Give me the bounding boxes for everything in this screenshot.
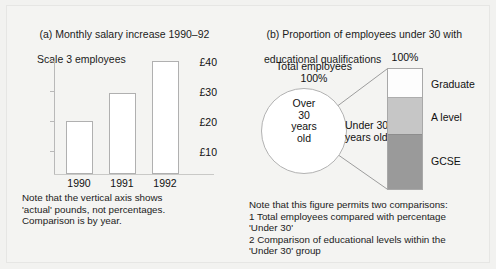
legend-label-graduate: Graduate [431, 78, 475, 90]
y-tick-label-20: £20 [189, 116, 217, 128]
caption-total-employees: Total employees 100% [254, 60, 374, 85]
bar-1991 [109, 93, 136, 175]
stacked-bar-top-label: 100% [375, 51, 435, 63]
panel-b-note: Note that this figure permits two compar… [249, 199, 489, 257]
bar-1992 [152, 61, 179, 174]
x-tick-label-1992: 1992 [142, 177, 188, 189]
x-axis-line [54, 174, 214, 175]
panel-a-bar-chart: (a) Monthly salary increase 1990–92 Scal… [22, 16, 237, 256]
bar-1990 [66, 121, 93, 174]
y-tick-label-30: £30 [189, 86, 217, 98]
panel-a-note: Note that the vertical axis shows 'actua… [22, 192, 240, 227]
y-axis-tick-40 [50, 61, 55, 62]
pie-slice-label-over30: Over 30 years old [261, 98, 347, 144]
stack-segment-gcse [388, 134, 422, 189]
y-axis-line [54, 61, 55, 174]
y-axis-tick-10 [50, 151, 55, 152]
panel-b-pie-and-stack: (b) Proportion of employees under 30 wit… [249, 16, 489, 256]
bar-chart-plot-area: £40 £30 £20 £10 1990 1991 1992 [22, 56, 217, 176]
y-tick-label-10: £10 [189, 146, 217, 158]
y-tick-label-40: £40 [189, 56, 217, 68]
stack-segment-graduate [388, 69, 422, 97]
legend-label-a-level: A level [431, 111, 462, 123]
panel-a-title-line1: (a) Monthly salary increase 1990–92 [40, 28, 210, 40]
y-axis-tick-30 [50, 91, 55, 92]
legend-label-gcse: GCSE [431, 155, 461, 167]
x-tick-label-1990: 1990 [56, 177, 102, 189]
stack-segment-a-level [388, 97, 422, 134]
y-axis-tick-20 [50, 121, 55, 122]
figure-canvas: (a) Monthly salary increase 1990–92 Scal… [0, 0, 496, 269]
stacked-bar-qualifications [387, 68, 423, 190]
x-tick-label-1991: 1991 [99, 177, 145, 189]
